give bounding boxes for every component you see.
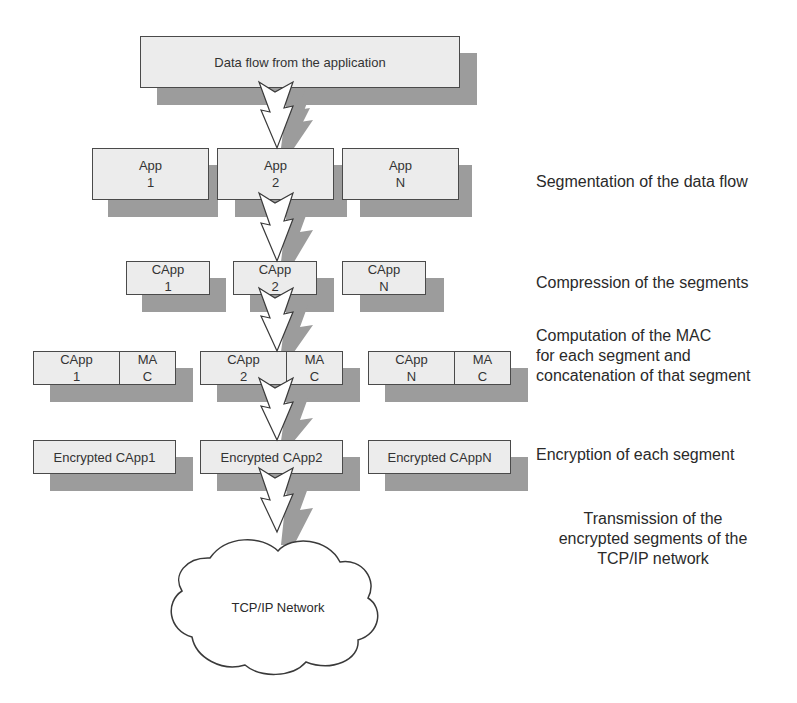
flow-arrow-icon bbox=[259, 468, 293, 532]
flow-arrow-icon bbox=[259, 82, 293, 148]
flow-arrow-icon bbox=[259, 193, 293, 261]
step-label-mac: Computation of the MAC for each segment … bbox=[536, 326, 750, 386]
step-label-transmission: Transmission of the encrypted segments o… bbox=[548, 509, 758, 569]
step-label-encryption: Encryption of each segment bbox=[536, 445, 734, 465]
step-label-compression: Compression of the segments bbox=[536, 273, 749, 293]
network-label: TCP/IP Network bbox=[210, 598, 346, 618]
step-label-segmentation: Segmentation of the data flow bbox=[536, 172, 748, 192]
flow-arrow-icon bbox=[259, 288, 293, 351]
flow-arrow-icon bbox=[259, 378, 293, 440]
